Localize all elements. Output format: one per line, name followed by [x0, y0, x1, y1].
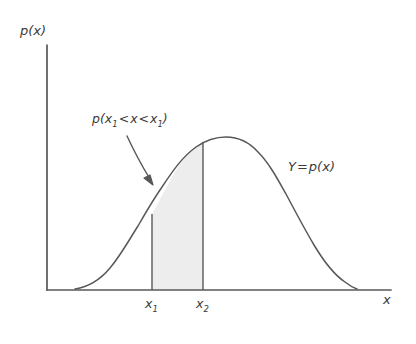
x-tick-x2-subscript: 2	[203, 304, 208, 314]
curve-equation-label: Y=p(x)	[288, 160, 335, 173]
curve-label-lhs: Y	[288, 159, 296, 174]
annotation-arrow	[127, 136, 153, 185]
annotation-func: p(	[92, 111, 105, 126]
x-tick-x1-subscript: 1	[152, 304, 157, 314]
curve-label-rhs: p(x)	[309, 159, 335, 174]
probability-annotation-label: p(x1<x<x1)	[92, 113, 168, 128]
annotation-close: )	[163, 111, 168, 126]
y-axis-label: p(x)	[20, 24, 46, 37]
annotation-variable: x	[130, 111, 137, 126]
x-tick-label-x2: x2	[196, 298, 209, 313]
probability-density-figure	[0, 0, 416, 344]
figure-container: p(x) x p(x1<x<x1) Y=p(x) x1 x2	[0, 0, 416, 344]
x-tick-label-x1: x1	[145, 298, 158, 313]
annotation-lower-subscript: 1	[112, 119, 117, 129]
curve-label-equals: =	[296, 159, 309, 174]
annotation-op-right: <	[138, 111, 150, 126]
x-axis-label: x	[383, 293, 391, 306]
annotation-op-left: <	[118, 111, 130, 126]
